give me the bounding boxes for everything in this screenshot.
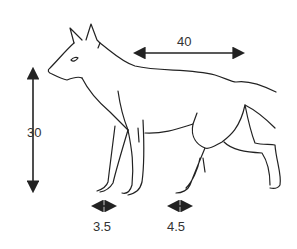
chest-line	[82, 78, 128, 130]
ear-left	[70, 28, 82, 43]
hind-leg-far	[176, 148, 205, 193]
ear-right	[86, 24, 100, 48]
belly-line	[145, 113, 197, 133]
head-back-line	[48, 43, 276, 92]
eye	[71, 57, 78, 61]
hind-foot-width-label: 4.5	[167, 220, 185, 233]
diagram-canvas: 40 30 3.5 4.5	[0, 0, 297, 249]
thigh-line	[224, 142, 270, 185]
fore-foot-width-label: 3.5	[93, 220, 111, 233]
body-length-label: 40	[177, 35, 191, 48]
front-leg-back	[97, 126, 128, 192]
hock-mark	[203, 158, 205, 172]
shoulder-height-label: 30	[27, 126, 41, 139]
animal-outline-drawing	[0, 0, 297, 249]
shoulder-line	[118, 91, 128, 130]
hind-leg-near	[192, 105, 280, 188]
elbow-mark	[138, 128, 139, 142]
front-leg-front	[122, 120, 144, 195]
